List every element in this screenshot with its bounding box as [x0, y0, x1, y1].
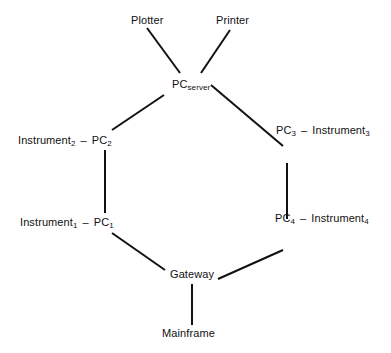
node-plotter: Plotter	[131, 14, 164, 26]
printer-label: Printer	[216, 14, 249, 26]
gateway-label: Gateway	[170, 268, 214, 280]
instrument1-label: Instrument1	[20, 216, 78, 228]
separator: –	[301, 124, 307, 136]
link-printer-server	[201, 30, 230, 73]
instrument4-label: Instrument4	[311, 212, 369, 224]
pc2-label: PC2	[92, 134, 112, 146]
link-server-pc2	[112, 95, 164, 130]
pc-server-sub: server	[187, 83, 210, 92]
link-pc4-gateway	[218, 250, 283, 279]
node-printer: Printer	[216, 14, 249, 26]
network-links	[0, 0, 391, 353]
node-pc2-group: Instrument2–PC2	[18, 134, 112, 146]
pc4-label: PC4	[275, 212, 295, 224]
pc-server-base: PC	[172, 78, 187, 90]
link-plotter-server	[147, 28, 180, 73]
node-mainframe: Mainframe	[162, 327, 215, 339]
node-pc3-group: PC3–Instrument3	[276, 124, 370, 136]
separator: –	[83, 216, 89, 228]
node-gateway: Gateway	[170, 268, 214, 280]
link-server-pc3	[211, 85, 283, 146]
instrument3-label: Instrument3	[312, 124, 370, 136]
plotter-label: Plotter	[131, 14, 164, 26]
pc1-label: PC1	[94, 216, 114, 228]
node-pc1-group: Instrument1–PC1	[20, 216, 114, 228]
mainframe-label: Mainframe	[162, 327, 215, 339]
separator: –	[81, 134, 87, 146]
separator: –	[300, 212, 306, 224]
node-pc-server: PCserver	[172, 78, 210, 90]
pc3-label: PC3	[276, 124, 296, 136]
link-pc1-gateway	[112, 233, 165, 270]
node-pc4-group: PC4–Instrument4	[275, 212, 369, 224]
instrument2-label: Instrument2	[18, 134, 76, 146]
